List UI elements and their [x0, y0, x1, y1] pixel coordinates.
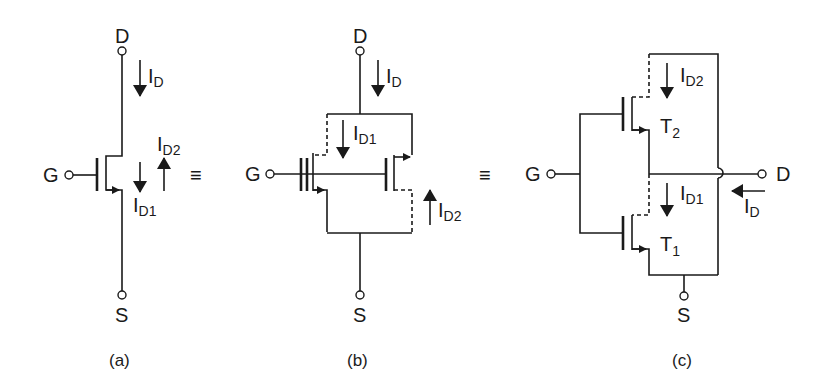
- current-label-id: ID: [148, 65, 164, 90]
- current-label-id1: ID1: [680, 182, 704, 207]
- left-source-wire: [313, 190, 327, 232]
- mosfet-equivalence-diagram: D G S ID ID1 ID2 (a) ≡ D G: [0, 0, 831, 392]
- current-label-id2: ID2: [680, 64, 704, 89]
- drain-terminal: [758, 170, 766, 178]
- caption-a: (a): [109, 351, 130, 370]
- dashed-drain-right: [394, 190, 412, 233]
- source-terminal: [356, 291, 364, 299]
- source-terminal: [680, 292, 688, 300]
- gate-terminal: [65, 171, 73, 179]
- t2-source-wire: [632, 130, 649, 174]
- gate-label: G: [43, 164, 59, 186]
- gate-terminal: [547, 170, 555, 178]
- source-label: S: [115, 304, 128, 326]
- gate-bus: [580, 114, 623, 233]
- caption-b: (b): [347, 351, 368, 370]
- source-label: S: [677, 304, 690, 326]
- source-terminal: [118, 291, 126, 299]
- current-label-id1: ID1: [133, 194, 157, 219]
- caption-c: (c): [672, 351, 692, 370]
- equivalence-symbol: ≡: [479, 164, 491, 186]
- drain-source-wire: [106, 55, 122, 291]
- drain-label: D: [353, 25, 367, 47]
- source-label: S: [353, 304, 366, 326]
- current-label-id: ID: [386, 65, 402, 90]
- drain-label: D: [115, 25, 129, 47]
- panel-a: D G S ID ID1 ID2 (a): [43, 25, 181, 370]
- t1-dashed-drain: [632, 174, 649, 215]
- current-label-id2: ID2: [157, 133, 181, 158]
- wire-crossover-hop: [718, 168, 723, 178]
- drain-terminal: [356, 47, 364, 55]
- panel-b: D G S ID ID1 ID2 (b): [245, 25, 462, 370]
- drain-label: D: [776, 163, 790, 185]
- current-label-id: ID: [744, 195, 760, 220]
- gate-label: G: [525, 163, 541, 185]
- gate-terminal: [266, 170, 274, 178]
- drain-terminal: [118, 47, 126, 55]
- current-label-id1: ID1: [353, 122, 377, 147]
- dashed-drain-left: [313, 114, 327, 155]
- gate-label: G: [245, 163, 261, 185]
- t2-dashed-drain: [632, 54, 649, 97]
- panel-c: G T2 D T1 S ID2 ID1 ID (c): [525, 54, 790, 370]
- t1-label: T1: [660, 233, 680, 259]
- current-label-id2: ID2: [438, 199, 462, 224]
- equivalence-symbol: ≡: [190, 164, 202, 186]
- t2-label: T2: [660, 115, 680, 141]
